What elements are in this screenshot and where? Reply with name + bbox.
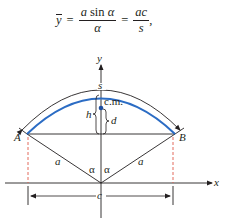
radius-line-left (27, 134, 101, 183)
arc-length-label: s (98, 79, 102, 91)
center-of-mass-dot (99, 106, 104, 111)
x-axis-label: x (213, 176, 219, 188)
angle-label-right: α (104, 163, 110, 175)
wire-arc-diagram: x y s c.m. h d A B a a α α c (0, 0, 226, 220)
y-axis-label: y (96, 52, 102, 64)
angle-label-left: α (89, 163, 95, 175)
center-of-mass-label: c.m. (104, 95, 123, 107)
radius-label-right: a (138, 155, 144, 167)
d-brace (103, 109, 109, 134)
chord-length-label: c (97, 189, 102, 201)
d-label: d (111, 114, 117, 126)
h-label: h (86, 108, 92, 120)
h-brace (93, 95, 99, 134)
point-b-label: B (179, 131, 186, 143)
radius-label-left: a (55, 155, 61, 167)
point-a-label: A (13, 131, 21, 143)
